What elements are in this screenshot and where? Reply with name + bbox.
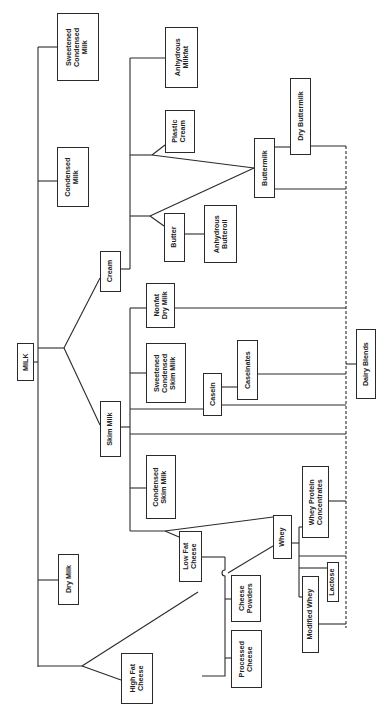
node-caseinates: Caseinates <box>237 340 258 400</box>
node-label: Buttermilk <box>260 150 268 186</box>
node-dry-buttermilk: Dry Buttermilk <box>290 78 311 155</box>
node-label: Whey <box>278 527 286 546</box>
node-label: High Fat Cheese <box>129 664 145 693</box>
node-cheese-powders: Cheese Powders <box>231 575 261 622</box>
node-label: Dry Milk <box>64 566 72 594</box>
node-sweetened-condensed-skim-milk: Sweetened Condensed Skim Milk <box>146 343 186 403</box>
node-label: Casein <box>208 383 216 407</box>
node-label: Butter <box>170 227 178 248</box>
dairy-products-flow-diagram: MILK Sweetened Condensed Milk Condensed … <box>0 0 389 728</box>
node-label: Caseinates <box>243 351 251 389</box>
node-nonfat-dry-milk: Nonfat Dry Milk <box>146 283 175 328</box>
node-label: Processed Cheese <box>238 641 254 677</box>
node-label: Lactose <box>329 568 337 595</box>
node-label: Condensed Skim Milk <box>153 467 169 506</box>
node-label: Skim Milk <box>106 412 114 445</box>
node-whey-protein-concentrates: Whey Protein Concentrates <box>302 466 329 538</box>
node-modified-whey: Modified Whey <box>302 576 319 653</box>
node-buttermilk: Buttermilk <box>254 138 275 198</box>
node-label: Cheese Powders <box>238 584 254 614</box>
node-label: Sweetened Condensed Skim Milk <box>154 353 179 392</box>
node-anhydrous-milkfat: Anhydrous Milkfat <box>165 27 198 88</box>
node-label: Dry Buttermilk <box>296 92 304 142</box>
node-cream: Cream <box>100 251 121 292</box>
node-whey: Whey <box>273 515 292 559</box>
node-label: Anhydrous Butteroil <box>212 215 228 253</box>
node-high-fat-cheese: High Fat Cheese <box>121 653 153 704</box>
node-label: Nonfat Dry Milk <box>152 292 168 320</box>
node-plastic-cream: Plastic Cream <box>165 110 195 153</box>
node-lactose: Lactose <box>327 562 339 602</box>
node-dairy-blends: Dairy Blends <box>356 329 376 399</box>
node-dry-milk: Dry Milk <box>58 554 79 605</box>
node-processed-cheese: Processed Cheese <box>231 630 262 688</box>
node-anhydrous-butteroil: Anhydrous Butteroil <box>204 205 237 263</box>
node-casein: Casein <box>203 373 222 416</box>
node-label: Anhydrous Milkfat <box>173 39 189 77</box>
node-label: Sweetened Condensed Milk <box>66 27 91 66</box>
node-label: Low Fat Cheese <box>182 543 198 570</box>
node-milk: MILK <box>17 343 34 381</box>
node-label: Plastic Cream <box>172 120 188 143</box>
node-label: Dairy Blends <box>362 342 370 386</box>
node-label: Modified Whey <box>306 589 314 640</box>
node-sweetened-condensed-milk: Sweetened Condensed Milk <box>57 13 99 81</box>
node-skim-milk: Skim Milk <box>100 401 121 457</box>
node-label: Whey Protein Concentrates <box>307 479 323 525</box>
node-label: Cream <box>106 260 114 282</box>
node-butter: Butter <box>164 213 185 262</box>
node-low-fat-cheese: Low Fat Cheese <box>179 531 202 582</box>
node-condensed-milk: Condensed Milk <box>57 147 89 207</box>
node-label: Condensed Milk <box>65 157 81 196</box>
node-condensed-skim-milk: Condensed Skim Milk <box>146 455 176 519</box>
node-label: MILK <box>21 353 29 371</box>
